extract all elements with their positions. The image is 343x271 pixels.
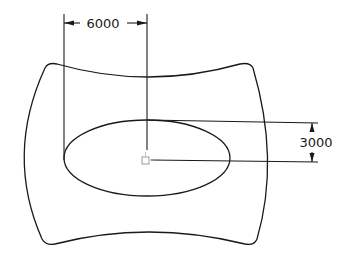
outer-outline — [24, 64, 267, 245]
arrowhead-right-icon — [137, 21, 147, 26]
drawing-canvas: 6000 3000 — [0, 0, 343, 271]
dimension-label-6000: 6000 — [86, 16, 119, 31]
arrowhead-up-icon — [310, 123, 315, 132]
extension-line-bottom — [151, 160, 318, 162]
square-snap-icon — [142, 152, 154, 164]
dimension-label-3000: 3000 — [299, 135, 332, 150]
arrowhead-left-icon — [64, 21, 74, 26]
arrowhead-down-icon — [310, 153, 315, 162]
